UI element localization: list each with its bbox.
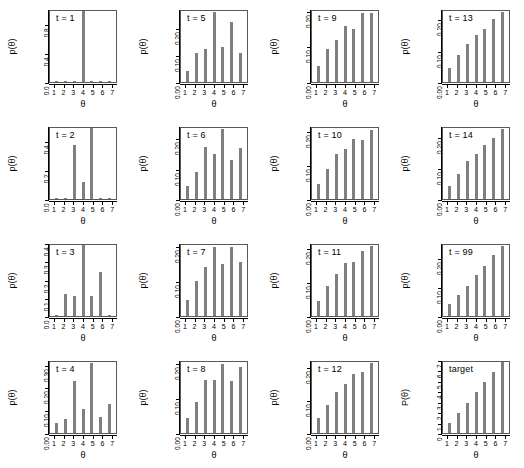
x-axis-tick-label: 1	[52, 440, 56, 447]
bar	[457, 174, 460, 199]
x-axis-tick-label: 5	[222, 89, 226, 96]
plot-panel: p(θ)0.000.100.20t = 991234567θ	[393, 234, 524, 351]
y-axis: 0.00.20.4	[41, 127, 49, 200]
x-axis-tick	[214, 435, 215, 439]
y-axis-title-text: p(θ)	[8, 155, 17, 171]
bar	[99, 81, 102, 82]
x-axis-tick	[355, 435, 356, 439]
bar	[213, 380, 216, 433]
x-axis-tick-label: 2	[62, 440, 66, 447]
bar-slot	[358, 11, 367, 82]
y-axis: 0.000.100.20	[303, 361, 311, 434]
x-axis-tick	[54, 201, 55, 205]
x-axis-tick	[224, 201, 225, 205]
x-axis-tick	[54, 84, 55, 88]
panel-label: target	[449, 364, 473, 374]
x-axis-tick-label: 2	[193, 206, 197, 213]
bar	[239, 53, 242, 82]
x-axis-tick	[185, 318, 186, 322]
x-axis-tick-label: 1	[445, 440, 449, 447]
x-axis-tick-label: 7	[110, 89, 114, 96]
x-axis-tick-label: 2	[324, 89, 328, 96]
bar	[501, 246, 504, 316]
x-axis-tick-label: 1	[314, 323, 318, 330]
bar	[475, 35, 478, 82]
bar	[230, 381, 233, 433]
x-axis-tick	[185, 201, 186, 205]
bar	[64, 294, 67, 316]
bar-slot	[367, 11, 376, 82]
x-axis-tick-label: 2	[324, 323, 328, 330]
x-axis-tick-label: 1	[52, 206, 56, 213]
x-axis-tick	[486, 435, 487, 439]
x-axis-tick	[495, 84, 496, 88]
x-axis-tick	[447, 435, 448, 439]
x-axis-tick-label: 6	[362, 206, 366, 213]
x-axis-tick	[476, 84, 477, 88]
plot-panel: p(θ)0.000.100.20t = 91234567θ	[262, 0, 393, 117]
bar-slot	[489, 128, 498, 199]
x-axis-tick-label: 4	[343, 89, 347, 96]
x-axis-tick	[364, 318, 365, 322]
x-axis-tick	[447, 318, 448, 322]
bar	[457, 413, 460, 433]
x-axis-tick-label: 7	[241, 323, 245, 330]
x-axis-tick	[112, 435, 113, 439]
plot-panel: p(θ)0.000.100.20t = 101234567θ	[262, 117, 393, 234]
x-axis-tick	[374, 318, 375, 322]
bar	[195, 53, 198, 82]
plot-panel: p(θ)0.000.100.20t = 131234567θ	[393, 0, 524, 117]
x-axis-title: θ	[180, 334, 248, 343]
x-axis-tick-label: 6	[362, 89, 366, 96]
x-axis-tick	[457, 201, 458, 205]
bar-slot	[358, 245, 367, 316]
x-axis-tick	[83, 435, 84, 439]
x-axis-tick-label: 2	[455, 206, 459, 213]
x-axis-tick	[73, 318, 74, 322]
x-axis-tick	[374, 201, 375, 205]
bar	[370, 246, 373, 316]
x-axis: 1234567	[49, 435, 117, 443]
y-axis-title-text: p(θ)	[401, 155, 410, 171]
x-axis-tick	[495, 201, 496, 205]
x-axis-tick-label: 1	[314, 440, 318, 447]
x-axis-tick-label: 3	[202, 323, 206, 330]
bar	[448, 68, 451, 82]
x-axis-tick-label: 1	[52, 323, 56, 330]
x-axis-tick	[204, 435, 205, 439]
x-axis-tick	[374, 435, 375, 439]
bar	[230, 247, 233, 316]
x-axis-tick	[345, 84, 346, 88]
bar-slot	[349, 245, 358, 316]
x-axis-tick	[466, 201, 467, 205]
x-axis-tick-label: 2	[455, 440, 459, 447]
x-axis-tick-label: 2	[324, 206, 328, 213]
y-axis: 0.000.100.20	[172, 127, 180, 200]
bar	[186, 71, 189, 82]
bar	[475, 275, 478, 316]
bar	[483, 29, 486, 82]
bar-slot	[87, 245, 96, 316]
x-axis-tick	[476, 318, 477, 322]
x-axis-tick-label: 6	[493, 440, 497, 447]
x-axis-title: θ	[442, 451, 510, 460]
x-axis-tick-label: 7	[372, 206, 376, 213]
bar-slot	[227, 128, 236, 199]
x-axis-tick	[335, 435, 336, 439]
x-axis-tick	[326, 435, 327, 439]
bar	[239, 262, 242, 316]
x-axis-tick	[73, 84, 74, 88]
x-axis-tick	[345, 201, 346, 205]
x-axis-title: θ	[311, 334, 379, 343]
bar	[204, 380, 207, 433]
bar-slot	[210, 11, 219, 82]
x-axis: 1234567	[49, 84, 117, 92]
bar	[64, 81, 67, 82]
x-axis-tick	[64, 201, 65, 205]
x-axis-tick-label: 1	[445, 89, 449, 96]
y-axis: 0.000.100.20	[434, 127, 442, 200]
x-axis-tick-label: 5	[91, 206, 95, 213]
bar-slot	[218, 362, 227, 433]
x-axis-tick-label: 3	[333, 323, 337, 330]
y-axis-title: P(θ)	[399, 361, 411, 434]
